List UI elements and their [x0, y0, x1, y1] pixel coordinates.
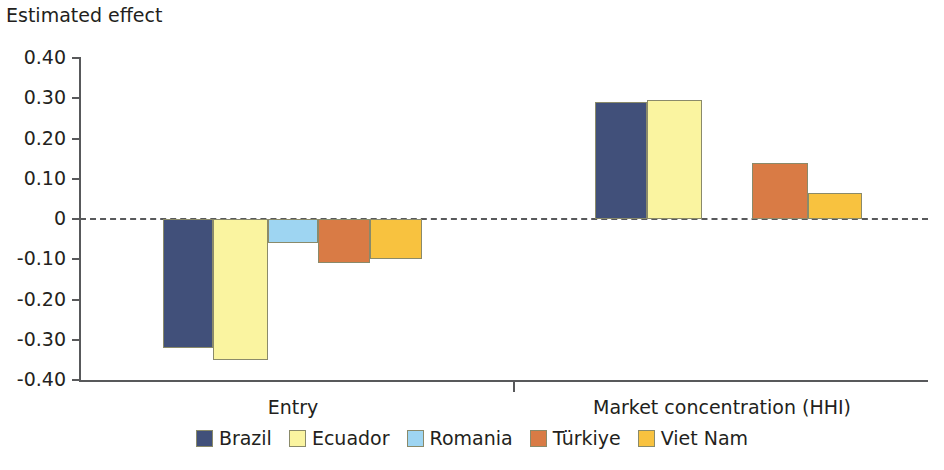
chart-container: Estimated effect 0.400.300.200.100-0.10-…: [0, 0, 944, 470]
bar-entry-brazil: [163, 219, 213, 348]
legend-item-brazil[interactable]: Brazil: [196, 428, 272, 448]
y-axis-tick: [72, 218, 80, 220]
y-axis-tick: [72, 258, 80, 260]
legend-swatch-icon: [407, 430, 424, 447]
y-axis-tick: [72, 97, 80, 99]
legend-swatch-icon: [530, 430, 547, 447]
bar-hhi-turkiye: [752, 163, 808, 219]
x-axis-line: [79, 380, 928, 382]
y-axis-tick-label: -0.20: [0, 290, 66, 309]
legend-item-romania[interactable]: Romania: [407, 428, 513, 448]
legend-item-ecuador[interactable]: Ecuador: [289, 428, 390, 448]
y-axis-tick-label: -0.30: [0, 330, 66, 349]
legend-label: Brazil: [219, 428, 272, 448]
y-axis-tick-label: 0.40: [0, 48, 66, 67]
x-axis-label-market-concentration: Market concentration (HHI): [0, 396, 944, 418]
chart-title: Estimated effect: [6, 4, 162, 26]
legend-swatch-icon: [638, 430, 655, 447]
y-axis-tick-label: -0.40: [0, 370, 66, 389]
legend-label: Viet Nam: [661, 428, 748, 448]
bar-entry-ecuador: [213, 219, 268, 360]
bar-entry-vietnam: [370, 219, 422, 259]
group-separator-tick: [513, 381, 515, 392]
y-axis-tick-label: 0.10: [0, 169, 66, 188]
y-axis-tick-label: 0: [0, 209, 66, 228]
y-axis-tick: [72, 299, 80, 301]
bar-entry-romania: [268, 219, 318, 243]
legend-label: Türkiye: [553, 428, 621, 448]
bar-entry-turkiye: [318, 219, 370, 263]
y-axis-tick: [72, 339, 80, 341]
legend-label: Romania: [430, 428, 513, 448]
y-axis-tick: [72, 178, 80, 180]
legend-item-türkiye[interactable]: Türkiye: [530, 428, 621, 448]
bar-hhi-ecuador: [647, 100, 702, 219]
y-axis-tick-label: 0.30: [0, 88, 66, 107]
legend-label: Ecuador: [312, 428, 390, 448]
y-axis-tick: [72, 138, 80, 140]
y-axis-tick-label: -0.10: [0, 249, 66, 268]
legend-swatch-icon: [196, 430, 213, 447]
bar-hhi-vietnam: [808, 193, 862, 219]
y-axis-tick: [72, 379, 80, 381]
y-axis-tick-label: 0.20: [0, 129, 66, 148]
y-axis-tick: [72, 57, 80, 59]
legend-item-viet-nam[interactable]: Viet Nam: [638, 428, 748, 448]
chart-legend: BrazilEcuadorRomaniaTürkiyeViet Nam: [0, 428, 944, 448]
bar-hhi-brazil: [595, 102, 647, 219]
legend-swatch-icon: [289, 430, 306, 447]
